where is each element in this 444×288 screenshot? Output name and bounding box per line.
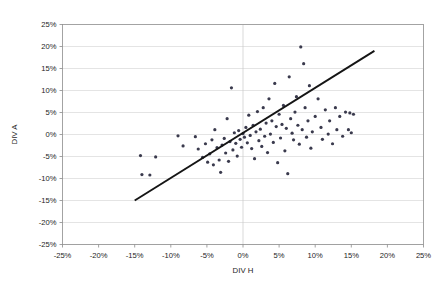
data-point xyxy=(267,97,270,100)
x-tick-label: -15% xyxy=(126,251,144,260)
x-tick-label: 15% xyxy=(344,251,359,260)
data-point xyxy=(236,154,239,157)
data-point xyxy=(246,141,249,144)
data-point xyxy=(240,146,243,149)
data-point xyxy=(344,110,347,113)
data-point xyxy=(285,127,288,130)
data-point xyxy=(335,128,338,131)
data-point xyxy=(257,139,260,142)
data-point xyxy=(327,132,330,135)
data-point xyxy=(249,134,252,137)
data-point xyxy=(314,115,317,118)
data-point xyxy=(197,147,200,150)
data-point xyxy=(291,132,294,135)
data-point xyxy=(306,119,309,122)
y-axis-title: DIV A xyxy=(10,124,19,145)
data-point xyxy=(243,136,246,139)
data-point xyxy=(254,130,257,133)
data-point xyxy=(233,131,236,134)
data-point xyxy=(289,117,292,120)
data-point xyxy=(278,113,281,116)
data-point xyxy=(273,82,276,85)
data-point xyxy=(283,149,286,152)
data-point xyxy=(237,129,240,132)
data-point xyxy=(265,121,268,124)
data-point xyxy=(298,143,301,146)
x-axis-title: DIV H xyxy=(233,266,254,275)
data-point xyxy=(269,132,272,135)
data-point xyxy=(204,142,207,145)
chart-canvas: 25%20%15%10%5%0%-5%-10%-15%-20%-25%-25%-… xyxy=(0,0,444,288)
data-point xyxy=(239,138,242,141)
data-point xyxy=(288,75,291,78)
data-point xyxy=(275,125,278,128)
data-point xyxy=(219,171,222,174)
data-point xyxy=(262,106,265,109)
data-point xyxy=(324,108,327,111)
data-point xyxy=(319,126,322,129)
data-point xyxy=(230,86,233,89)
data-point xyxy=(352,113,355,116)
x-tick-label: -25% xyxy=(54,251,72,260)
x-tick-label: 5% xyxy=(274,251,285,260)
x-axis: -25%-20%-15%-10%-5%0%5%10%15%20%25% xyxy=(54,245,432,260)
y-tick-label: -10% xyxy=(39,174,57,183)
data-point xyxy=(296,124,299,127)
data-point xyxy=(212,163,215,166)
data-point xyxy=(226,117,229,120)
data-point xyxy=(286,172,289,175)
data-point xyxy=(259,128,262,131)
data-point xyxy=(250,147,253,150)
data-point xyxy=(260,145,263,148)
data-point xyxy=(308,84,311,87)
data-point xyxy=(272,141,275,144)
data-point xyxy=(263,135,266,138)
data-point xyxy=(299,45,302,48)
trend-line xyxy=(135,51,375,201)
data-point xyxy=(301,128,304,131)
scatter-chart: 25%20%15%10%5%0%-5%-10%-15%-20%-25%-25%-… xyxy=(0,0,444,288)
data-point xyxy=(328,119,331,122)
y-tick-label: 15% xyxy=(41,64,56,73)
data-point xyxy=(331,142,334,145)
data-point xyxy=(302,62,305,65)
y-tick-label: -25% xyxy=(39,240,57,249)
x-tick-label: 25% xyxy=(416,251,431,260)
data-point xyxy=(148,173,151,176)
data-point xyxy=(247,114,250,117)
y-axis: 25%20%15%10%5%0%-5%-10%-15%-20%-25% xyxy=(39,20,63,249)
data-point xyxy=(338,115,341,118)
y-tick-label: -15% xyxy=(39,196,57,205)
x-tick-label: -10% xyxy=(162,251,180,260)
y-tick-label: 10% xyxy=(41,86,56,95)
x-tick-label: 20% xyxy=(380,251,395,260)
data-point xyxy=(181,144,184,147)
data-point xyxy=(280,123,283,126)
data-point xyxy=(293,110,296,113)
data-series xyxy=(139,45,355,176)
data-point xyxy=(305,136,308,139)
data-point xyxy=(266,151,269,154)
data-point xyxy=(279,136,282,139)
data-point xyxy=(303,106,306,109)
data-point xyxy=(321,138,324,141)
data-point xyxy=(253,157,256,160)
data-point xyxy=(350,131,353,134)
data-point xyxy=(309,147,312,150)
data-point xyxy=(270,119,273,122)
data-point xyxy=(348,111,351,114)
x-tick-label: 10% xyxy=(308,251,323,260)
data-point xyxy=(234,142,237,145)
data-point xyxy=(244,126,247,129)
data-point xyxy=(176,134,179,137)
data-point xyxy=(227,160,230,163)
y-tick-label: 5% xyxy=(46,108,57,117)
data-point xyxy=(276,161,279,164)
data-point xyxy=(316,97,319,100)
data-point xyxy=(210,138,213,141)
y-tick-label: 25% xyxy=(41,20,56,29)
x-tick-label: -5% xyxy=(200,251,214,260)
x-tick-label: -20% xyxy=(90,251,108,260)
data-point xyxy=(223,137,226,140)
data-point xyxy=(311,130,314,133)
